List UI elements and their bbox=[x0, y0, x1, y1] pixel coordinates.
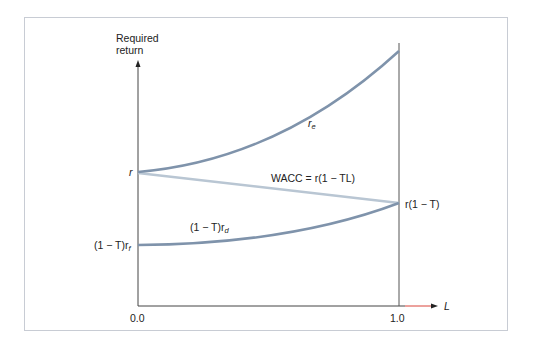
x-axis-arrow-icon bbox=[431, 304, 438, 309]
wacc-label: WACC = r(1 − TL) bbox=[271, 172, 355, 184]
rd-curve bbox=[138, 203, 399, 245]
x-axis-label: L bbox=[444, 300, 450, 312]
re-curve bbox=[138, 51, 399, 172]
rd-label: (1 − T)rd bbox=[190, 221, 229, 237]
x-tick-0: 0.0 bbox=[130, 312, 145, 324]
rf-label: (1 − T)rf bbox=[94, 239, 131, 255]
re-label: re bbox=[308, 117, 316, 133]
diagram-canvas bbox=[0, 0, 533, 348]
x-tick-1: 1.0 bbox=[390, 312, 405, 324]
r-label: r bbox=[129, 166, 133, 178]
y-axis-arrow-icon bbox=[136, 60, 141, 67]
end-label: r(1 − T) bbox=[405, 198, 440, 210]
wacc-line bbox=[138, 173, 399, 203]
y-axis-label: Required return bbox=[116, 32, 159, 56]
